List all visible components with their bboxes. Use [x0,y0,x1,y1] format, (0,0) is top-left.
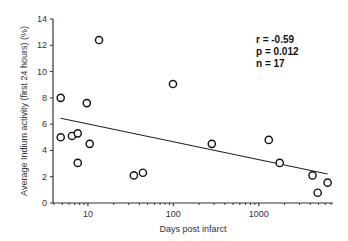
scatter-chart: 02468101214101001000 Days post infarct A… [0,0,348,241]
data-point [324,179,331,186]
x-tick-label: 100 [166,209,181,219]
y-tick-label: 12 [37,40,47,50]
data-point [74,130,81,137]
y-tick-label: 6 [42,119,47,129]
stat-r: r = -0.59 [256,34,295,45]
data-point [130,172,137,179]
x-tick-label: 10 [83,209,93,219]
y-tick-label: 0 [42,198,47,208]
y-tick-label: 10 [37,67,47,77]
y-tick-label: 8 [42,93,47,103]
x-tick-label: 1000 [249,209,269,219]
x-axis-label: Days post infarct [159,224,227,234]
data-point [139,169,146,176]
data-point [309,172,316,179]
data-point [276,159,283,166]
regression-line [61,118,328,174]
data-point [265,136,272,143]
y-tick-label: 2 [42,172,47,182]
data-point [74,159,81,166]
data-point [57,94,64,101]
data-points [57,36,331,196]
y-tick-label: 14 [37,14,47,24]
stat-n: n = 17 [256,58,285,69]
data-point [208,140,215,147]
data-point [83,100,90,107]
data-point [95,36,102,43]
data-point [57,134,64,141]
data-point [314,189,321,196]
stat-p: p = 0.012 [256,46,299,57]
data-point [86,140,93,147]
y-tick-label: 4 [42,145,47,155]
y-axis-label: Average Indium activity (first 24 hours)… [19,26,29,196]
data-point [169,80,176,87]
